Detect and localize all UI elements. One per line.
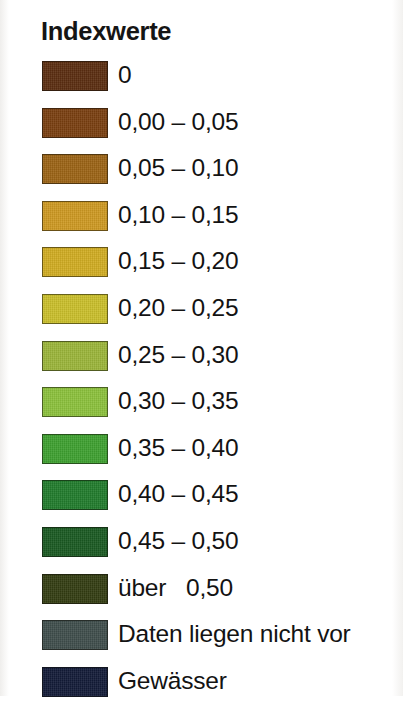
- legend-entry-label: 0,35 – 0,40: [118, 431, 238, 465]
- legend-color-swatch: [42, 247, 108, 277]
- legend-color-swatch: [42, 341, 108, 371]
- legend-color-swatch: [42, 480, 108, 510]
- legend-color-swatch: [42, 434, 108, 464]
- legend-color-swatch: [42, 294, 108, 324]
- legend-title: Indexwerte: [41, 19, 171, 45]
- legend-entry-label: 0,45 – 0,50: [118, 524, 238, 558]
- legend-entry-label: 0,30 – 0,35: [118, 384, 238, 418]
- legend-color-swatch: [42, 61, 108, 91]
- legend-color-swatch: [42, 387, 108, 417]
- legend-row: 0,20 – 0,25: [0, 294, 403, 341]
- legend-entry-label: 0,05 – 0,10: [118, 151, 238, 185]
- legend-entry-label: 0,00 – 0,05: [118, 105, 238, 139]
- legend-row: 0,25 – 0,30: [0, 341, 403, 388]
- legend-row: 0,45 – 0,50: [0, 527, 403, 574]
- legend-entry-list: 00,00 – 0,050,05 – 0,100,10 – 0,150,15 –…: [0, 61, 403, 701]
- legend-color-swatch: [42, 574, 108, 604]
- legend-row: 0,05 – 0,10: [0, 154, 403, 201]
- legend-entry-label: 0,20 – 0,25: [118, 291, 238, 325]
- legend-row: 0,30 – 0,35: [0, 387, 403, 434]
- legend-row: 0,15 – 0,20: [0, 247, 403, 294]
- legend-color-swatch: [42, 108, 108, 138]
- legend-row: 0,40 – 0,45: [0, 480, 403, 527]
- legend-color-swatch: [42, 527, 108, 557]
- legend-row: über 0,50: [0, 574, 403, 621]
- legend-entry-label: 0,10 – 0,15: [118, 198, 238, 232]
- legend-row: 0,35 – 0,40: [0, 434, 403, 481]
- legend-entry-label: 0,15 – 0,20: [118, 244, 238, 278]
- legend-row: Daten liegen nicht vor: [0, 620, 403, 667]
- legend-color-swatch: [42, 154, 108, 184]
- legend-entry-label: über 0,50: [118, 571, 233, 605]
- legend-entry-label: Daten liegen nicht vor: [118, 617, 351, 651]
- legend-entry-label: Gewässer: [118, 664, 227, 698]
- legend-color-swatch: [42, 620, 108, 650]
- legend-entry-label: 0,40 – 0,45: [118, 477, 238, 511]
- legend-entry-label: 0: [118, 58, 131, 92]
- legend-row: Gewässer: [0, 667, 403, 701]
- legend-entry-label: 0,25 – 0,30: [118, 338, 238, 372]
- legend-color-swatch: [42, 201, 108, 231]
- legend-row: 0: [0, 61, 403, 108]
- legend-color-swatch: [42, 667, 108, 697]
- legend-row: 0,10 – 0,15: [0, 201, 403, 248]
- legend-row: 0,00 – 0,05: [0, 108, 403, 155]
